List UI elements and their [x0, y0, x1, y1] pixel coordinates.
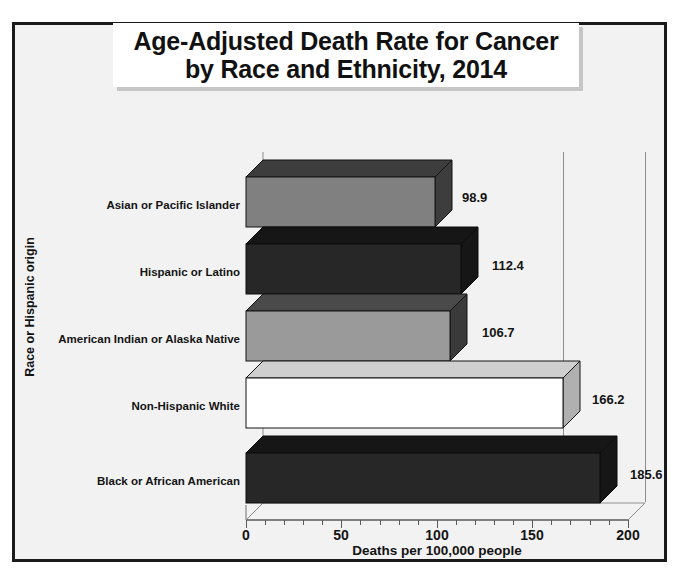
chart-frame	[12, 22, 667, 562]
chart-container: 0 50 100 150 200 Asian or Pacific Island…	[0, 0, 683, 579]
page-title: Age-Adjusted Death Rate for Cancer by Ra…	[133, 27, 558, 83]
title-box: Age-Adjusted Death Rate for Cancer by Ra…	[113, 23, 579, 87]
